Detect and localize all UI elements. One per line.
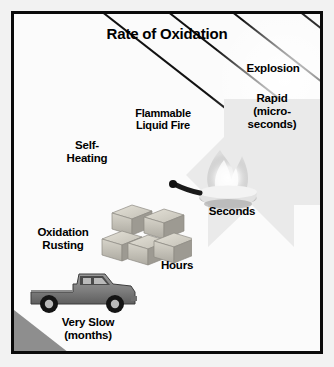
label-rapid: Rapid (micro- seconds) bbox=[232, 92, 312, 131]
pickup-truck-icon bbox=[27, 266, 139, 318]
label-oxidation-rusting: Oxidation Rusting bbox=[18, 226, 108, 252]
label-flammable-liquid-fire: Flammable Liquid Fire bbox=[117, 107, 209, 132]
label-very-slow: Very Slow (months) bbox=[36, 316, 140, 342]
oxidation-rate-diagram: Rate of Oxidation Explosion Rapid (micro… bbox=[0, 0, 334, 367]
label-explosion: Explosion bbox=[226, 62, 320, 75]
label-self-heating: Self- Heating bbox=[51, 139, 123, 165]
diagram-frame: Rate of Oxidation Explosion Rapid (micro… bbox=[11, 11, 323, 354]
page-title: Rate of Oxidation bbox=[14, 25, 320, 42]
label-hours: Hours bbox=[147, 259, 207, 272]
label-seconds: Seconds bbox=[197, 205, 267, 218]
diagram-canvas: Rate of Oxidation Explosion Rapid (micro… bbox=[14, 14, 320, 351]
